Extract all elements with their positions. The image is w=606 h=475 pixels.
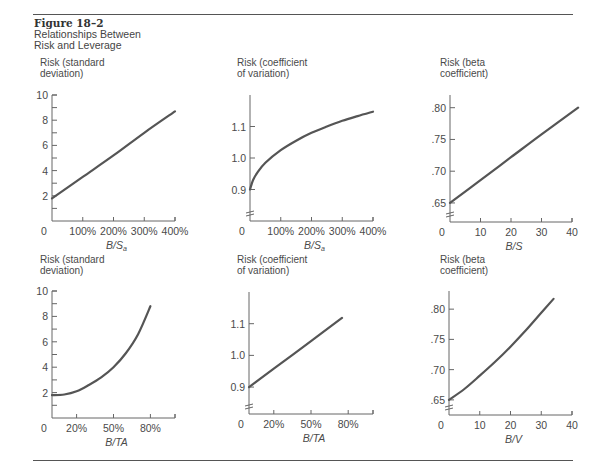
y-axis-label: deviation) xyxy=(40,265,83,276)
y-tick-label: .80 xyxy=(430,303,445,315)
y-tick-label: 6 xyxy=(42,139,48,151)
x-tick-label: 100% xyxy=(69,225,96,237)
y-tick-label: .80 xyxy=(431,102,446,114)
x-tick-label: 40 xyxy=(566,419,578,431)
x-axis-label: B/Sa xyxy=(304,239,325,252)
y-tick-label: .65 xyxy=(431,197,446,209)
y-tick-label: 10 xyxy=(36,89,48,101)
chart-1: Risk (coefficientof variation)0.91.01.10… xyxy=(231,57,386,252)
data-line xyxy=(450,108,578,203)
x-tick-label: 30 xyxy=(535,419,547,431)
y-tick-label: 4 xyxy=(42,361,48,373)
y-tick-label: .70 xyxy=(431,165,446,177)
x-tick-label: 10 xyxy=(475,226,487,238)
y-tick-label: 2 xyxy=(42,387,48,399)
y-axis-label: Risk (coefficient xyxy=(237,254,308,265)
y-axis-label: Risk (beta xyxy=(440,254,485,265)
y-axis-label: of variation) xyxy=(237,265,289,276)
y-axis-label: Risk (standard xyxy=(40,57,104,68)
y-tick-label: 0.9 xyxy=(230,381,245,393)
x-tick-label: 30 xyxy=(536,226,548,238)
x-axis-label: B/S xyxy=(506,240,523,252)
chart-5: Risk (betacoefficient).65.70.75.80010203… xyxy=(430,254,578,445)
x-tick-label: 0 xyxy=(238,418,244,430)
y-axis-label: coefficient) xyxy=(440,265,488,276)
x-tick-label: 10 xyxy=(474,419,486,431)
y-tick-label: .70 xyxy=(430,364,445,376)
data-line xyxy=(249,318,342,387)
x-axis-label: B/TA xyxy=(105,436,128,448)
data-line xyxy=(250,112,373,190)
x-tick-label: 40 xyxy=(566,226,578,238)
y-axis-label: deviation) xyxy=(40,68,83,79)
y-axis-label: Risk (standard xyxy=(40,254,104,265)
y-tick-label: 1.1 xyxy=(231,121,246,133)
x-tick-label: 20% xyxy=(263,418,284,430)
y-tick-label: 6 xyxy=(42,336,48,348)
x-tick-label: 0 xyxy=(41,422,47,434)
x-tick-label: 80% xyxy=(140,422,161,434)
data-line xyxy=(449,299,554,400)
x-axis-label: B/TA xyxy=(303,432,326,444)
y-tick-label: .75 xyxy=(430,333,445,345)
x-tick-label: 400% xyxy=(360,225,387,237)
data-line xyxy=(52,111,175,198)
x-tick-label: 100% xyxy=(267,225,294,237)
y-axis-label: coefficient) xyxy=(440,68,488,79)
y-tick-label: 4 xyxy=(42,165,48,177)
x-tick-label: 0 xyxy=(438,419,444,431)
y-tick-label: 10 xyxy=(36,285,48,297)
x-axis-label: B/V xyxy=(505,433,523,445)
x-tick-label: 80% xyxy=(338,418,359,430)
x-tick-label: 20 xyxy=(505,419,517,431)
y-tick-label: 8 xyxy=(42,114,48,126)
x-tick-label: 0 xyxy=(41,225,47,237)
x-tick-label: 300% xyxy=(131,225,158,237)
x-axis-label: B/Sa xyxy=(106,239,127,252)
y-tick-label: .65 xyxy=(430,394,445,406)
chart-0: Risk (standarddeviation)2468100100%200%3… xyxy=(36,57,188,252)
x-tick-label: 200% xyxy=(298,225,325,237)
y-tick-label: 0.9 xyxy=(231,184,246,196)
y-axis-label: of variation) xyxy=(237,68,289,79)
x-tick-label: 300% xyxy=(329,225,356,237)
x-tick-label: 20 xyxy=(505,226,517,238)
bottom-rule xyxy=(33,460,573,461)
y-tick-label: 8 xyxy=(42,310,48,322)
x-tick-label: 20% xyxy=(66,422,87,434)
y-tick-label: .75 xyxy=(431,133,446,145)
y-tick-label: 1.0 xyxy=(231,152,246,164)
y-tick-label: 2 xyxy=(42,190,48,202)
chart-2: Risk (betacoefficient).65.70.75.80010203… xyxy=(431,57,578,252)
y-axis-label: Risk (beta xyxy=(440,57,485,68)
x-tick-label: 50% xyxy=(300,418,321,430)
data-line xyxy=(52,306,150,395)
x-tick-label: 400% xyxy=(162,225,189,237)
charts-grid: Risk (standarddeviation)2468100100%200%3… xyxy=(0,0,606,475)
x-tick-label: 50% xyxy=(103,422,124,434)
x-tick-label: 0 xyxy=(239,225,245,237)
y-tick-label: 1.1 xyxy=(230,318,245,330)
x-tick-label: 200% xyxy=(100,225,127,237)
y-tick-label: 1.0 xyxy=(230,349,245,361)
y-axis-label: Risk (coefficient xyxy=(237,57,308,68)
chart-3: Risk (standarddeviation)246810020%50%80%… xyxy=(36,254,175,448)
chart-4: Risk (coefficientof variation)0.91.01.10… xyxy=(230,254,373,444)
x-tick-label: 0 xyxy=(439,226,445,238)
